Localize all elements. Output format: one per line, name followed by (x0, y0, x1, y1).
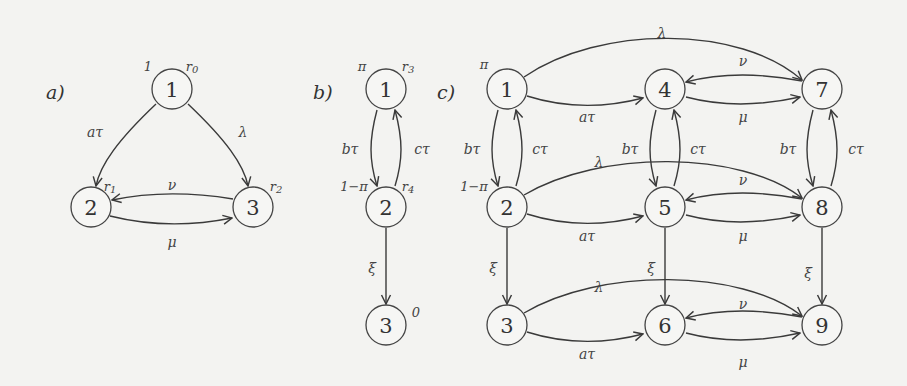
svg-text:1: 1 (379, 78, 392, 102)
edge-label-ctau: cτ (690, 141, 706, 157)
svg-text:1: 1 (500, 78, 513, 102)
edge-label-mu: μ (738, 228, 747, 244)
edge-c-2-5 (527, 214, 643, 223)
init-prob-c-1: π (479, 57, 489, 72)
svg-text:8: 8 (815, 196, 828, 220)
node-c-8: 8 (802, 187, 842, 227)
edge-c-7-8 (807, 110, 813, 186)
svg-text:9: 9 (815, 314, 828, 338)
edge-a-1-3 (188, 104, 248, 186)
node-c-1: 1 (487, 69, 527, 109)
edge-label-atau: aτ (87, 124, 103, 140)
panel-c-label: c) (437, 81, 455, 103)
node-b-1: 1 (366, 69, 406, 109)
edge-c-2-1 (516, 110, 522, 186)
edge-label-btau: bτ (464, 141, 481, 157)
edge-label-nu: ν (739, 172, 748, 188)
edge-label-mu: μ (167, 234, 176, 250)
edge-label-ctau: cτ (414, 141, 430, 157)
edge-c-6-9 (686, 333, 800, 340)
node-c-2: 2 (487, 187, 527, 227)
svg-text:4: 4 (658, 78, 671, 102)
node-c-4: 4 (645, 69, 685, 109)
panel-b: b) bτ cτ ξ 1 2 3 π r3 1−π r4 0 (313, 59, 430, 346)
svg-text:6: 6 (658, 314, 671, 338)
edge-label-ctau: cτ (848, 141, 864, 157)
node-c-9: 9 (802, 305, 842, 345)
reward-r3: r3 (402, 59, 415, 75)
edge-c-4-7 (686, 97, 800, 104)
svg-text:2: 2 (84, 196, 97, 220)
reward-r0: r0 (186, 59, 199, 75)
edge-c-8-7 (831, 110, 837, 186)
edge-label-nu: ν (739, 296, 748, 312)
edge-label-mu: μ (738, 109, 747, 125)
edge-label-atau: aτ (579, 346, 595, 362)
svg-text:5: 5 (658, 196, 671, 220)
edge-c-1-4 (527, 96, 643, 105)
edge-label-xi: ξ (368, 260, 377, 276)
node-b-3: 3 (366, 305, 406, 345)
edge-label-ctau: cτ (532, 141, 548, 157)
edge-c-3-6 (527, 332, 643, 341)
edge-c-9-6 (686, 311, 802, 318)
edge-label-btau: bτ (780, 141, 797, 157)
markov-chain-figure: a) aτ λ ν μ 1 2 3 1 r0 r1 r2 b) bτ cτ ξ … (0, 0, 907, 386)
svg-text:7: 7 (815, 78, 828, 102)
edge-a-3-2 (112, 194, 233, 200)
edge-b-1-2 (371, 110, 377, 186)
edge-c-5-8 (686, 215, 800, 222)
svg-text:3: 3 (379, 314, 392, 338)
node-c-6: 6 (645, 305, 685, 345)
edge-label-xi: ξ (489, 260, 498, 276)
edge-c-1-2 (492, 110, 498, 186)
reward-r1: r1 (104, 179, 117, 195)
node-b-2: 2 (366, 187, 406, 227)
edge-c-7-4 (686, 75, 802, 82)
edge-label-btau: bτ (342, 141, 359, 157)
edge-c-5-4 (674, 110, 680, 186)
init-prob-b-1: π (357, 59, 367, 74)
svg-text:2: 2 (379, 196, 392, 220)
edge-label-lambda: λ (594, 279, 604, 295)
edge-label-btau: bτ (622, 141, 639, 157)
edge-a-2-3 (110, 216, 232, 224)
edge-label-nu: ν (739, 53, 748, 69)
edge-label-lambda: λ (594, 154, 604, 170)
reward-zero: 0 (412, 305, 420, 320)
svg-text:3: 3 (500, 314, 513, 338)
node-a-3: 3 (233, 187, 273, 227)
svg-text:1: 1 (165, 78, 178, 102)
edge-label-atau: aτ (579, 228, 595, 244)
svg-text:3: 3 (246, 196, 259, 220)
panel-a: a) aτ λ ν μ 1 2 3 1 r0 r1 r2 (46, 59, 282, 251)
edge-b-2-1 (395, 110, 401, 186)
init-prob-a-1: 1 (144, 59, 152, 74)
edge-label-xi: ξ (647, 260, 656, 276)
node-c-3: 3 (487, 305, 527, 345)
edge-label-xi: ξ (804, 265, 813, 281)
reward-r2: r2 (270, 179, 283, 195)
panel-a-label: a) (46, 81, 65, 103)
init-prob-b-2: 1−π (340, 179, 368, 194)
node-a-1: 1 (152, 69, 192, 109)
edge-label-lambda: λ (657, 25, 667, 41)
svg-text:2: 2 (500, 196, 513, 220)
edge-label-mu: μ (738, 354, 747, 370)
edge-c-8-5 (686, 193, 802, 200)
panel-c: c) aτ λ ν μ aτ λ ν μ (437, 25, 864, 370)
edge-label-lambda: λ (238, 124, 248, 140)
reward-r4: r4 (402, 179, 415, 195)
init-prob-c-2: 1−π (460, 179, 488, 194)
edge-label-nu: ν (168, 177, 177, 193)
edge-a-1-2 (96, 104, 156, 186)
edge-c-4-5 (650, 110, 656, 186)
node-c-7: 7 (802, 69, 842, 109)
panel-b-label: b) (313, 81, 333, 103)
node-c-5: 5 (645, 187, 685, 227)
edge-label-atau: aτ (579, 109, 595, 125)
